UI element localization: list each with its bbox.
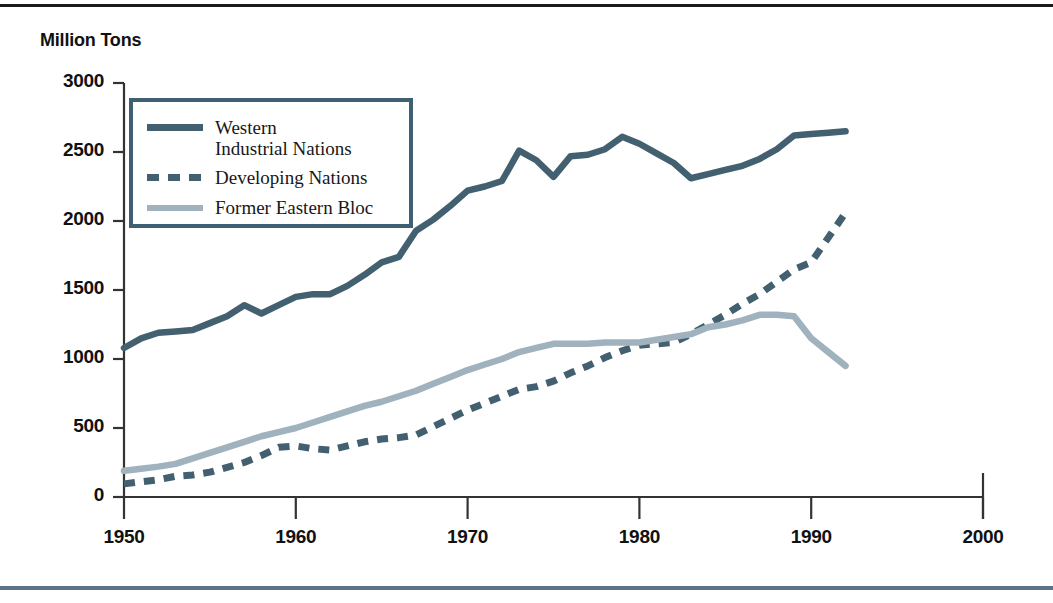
x-tick-label: 1980 bbox=[594, 526, 684, 548]
chart-figure: Million Tons 300025002000150010005000 19… bbox=[0, 0, 1053, 603]
y-tick-label: 3000 bbox=[28, 70, 104, 92]
y-tick-label: 1500 bbox=[28, 277, 104, 299]
legend-item-1: Western Industrial Nations bbox=[147, 116, 352, 150]
x-tick-label: 2000 bbox=[938, 526, 1028, 548]
legend-swatch-icon bbox=[147, 116, 203, 138]
plot-area bbox=[0, 0, 1053, 603]
y-tick-label: 1000 bbox=[28, 346, 104, 368]
legend-line-sample bbox=[147, 124, 203, 131]
chart-legend: Western Industrial NationsDeveloping Nat… bbox=[129, 98, 413, 228]
x-tick-label: 1950 bbox=[79, 526, 169, 548]
legend-line-sample bbox=[147, 174, 203, 181]
legend-item-label: Former Eastern Bloc bbox=[215, 196, 373, 218]
x-tick-label: 1970 bbox=[423, 526, 513, 548]
legend-item-3: Former Eastern Bloc bbox=[147, 196, 373, 230]
legend-item-label: Developing Nations bbox=[215, 166, 368, 188]
legend-item-label: Western Industrial Nations bbox=[215, 116, 352, 159]
legend-swatch-icon bbox=[147, 196, 203, 218]
legend-line-sample bbox=[147, 205, 203, 211]
y-tick-label: 500 bbox=[28, 415, 104, 437]
y-tick-label: 2500 bbox=[28, 139, 104, 161]
y-tick-label: 0 bbox=[28, 484, 104, 506]
x-tick-label: 1990 bbox=[766, 526, 856, 548]
legend-swatch-icon bbox=[147, 166, 203, 188]
y-tick-label: 2000 bbox=[28, 208, 104, 230]
x-tick-label: 1960 bbox=[251, 526, 341, 548]
legend-item-2: Developing Nations bbox=[147, 166, 368, 200]
series-line-3 bbox=[124, 315, 846, 471]
